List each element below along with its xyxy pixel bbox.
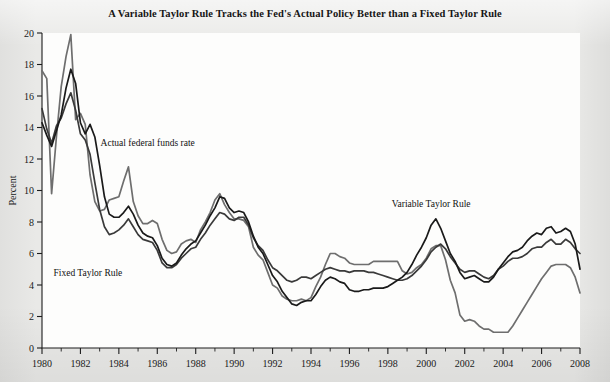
y-tick-label: 2 (29, 311, 34, 322)
y-tick-label: 10 (24, 185, 34, 196)
x-tick-label: 1994 (301, 358, 321, 369)
annotation-fixed-taylor-rule: Fixed Taylor Rule (54, 268, 123, 278)
x-tick-label: 1998 (378, 358, 398, 369)
y-axis-title: Percent (7, 175, 18, 205)
y-tick-label: 6 (29, 248, 34, 259)
x-tick-label: 1980 (32, 358, 52, 369)
annotation-variable-taylor-rule: Variable Taylor Rule (392, 199, 471, 209)
x-tick-label: 1988 (186, 358, 206, 369)
y-tick-label: 12 (24, 154, 34, 165)
x-tick-label: 2002 (455, 358, 475, 369)
y-tick-label: 14 (24, 122, 34, 133)
y-tick-label: 18 (24, 59, 34, 70)
plot-area-wrapper: 02468101214161820 1980198219841986198819… (0, 0, 610, 382)
chart-page: A Variable Taylor Rule Tracks the Fed's … (0, 0, 610, 382)
x-tick-label: 1996 (339, 358, 359, 369)
y-tick-label: 8 (29, 217, 34, 228)
x-tick-label: 2000 (416, 358, 436, 369)
x-tick-label: 2006 (532, 358, 552, 369)
x-tick-label: 2004 (493, 358, 513, 369)
annotation-actual-federal-funds-rate: Actual federal funds rate (101, 138, 195, 148)
y-axis-tick-labels: 02468101214161820 (24, 28, 34, 354)
x-tick-label: 1986 (147, 358, 167, 369)
x-tick-label: 1982 (70, 358, 90, 369)
x-tick-label: 1992 (263, 358, 283, 369)
taylor-rule-line-chart: 02468101214161820 1980198219841986198819… (0, 0, 610, 382)
x-axis-tick-labels: 1980198219841986198819901992199419961998… (32, 358, 590, 369)
y-tick-label: 0 (29, 343, 34, 354)
y-axis-title-text: Percent (7, 175, 18, 205)
x-tick-label: 2008 (570, 358, 590, 369)
x-tick-label: 1990 (224, 358, 244, 369)
y-tick-label: 20 (24, 28, 34, 39)
x-tick-label: 1984 (109, 358, 129, 369)
y-tick-label: 4 (29, 280, 34, 291)
y-tick-label: 16 (24, 91, 34, 102)
